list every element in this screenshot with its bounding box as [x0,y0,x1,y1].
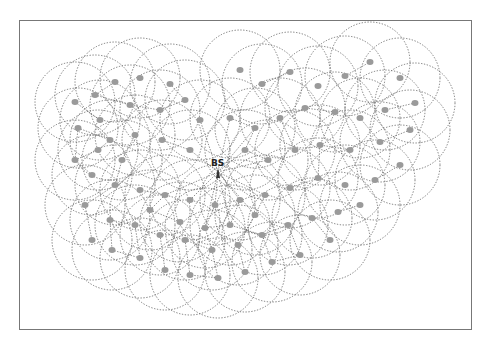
link [280,118,295,150]
link [170,84,185,100]
sensor-node [82,202,89,208]
sensor-node [317,142,324,148]
link [75,128,78,160]
sensor-node [287,69,294,75]
link [238,215,255,245]
sensor-node [132,222,139,228]
link-to-base-station [165,172,218,195]
sensor-node [227,222,234,228]
link [115,160,122,185]
sensor-node [242,269,249,275]
link [385,103,415,110]
sensor-node [137,187,144,193]
sensor-node [95,147,102,153]
link [85,205,92,240]
sensor-node [342,182,349,188]
sensor-node [197,117,204,123]
link [190,275,218,278]
sensor-node [72,99,79,105]
link [318,145,320,178]
link [312,218,330,240]
sensor-node [132,132,139,138]
sensor-node [372,177,379,183]
sensor-node [147,207,154,213]
sensor-node [109,247,116,253]
network-diagram: BS [0,0,491,347]
sensor-node [265,157,272,163]
link [345,62,370,76]
sensor-node [187,197,194,203]
link [230,118,255,128]
link-to-base-station [218,172,265,195]
link [380,130,410,142]
sensor-node [112,79,119,85]
sensor-node [262,192,269,198]
link-to-base-station [205,172,218,228]
sensor-node [397,162,404,168]
sensor-node [242,147,249,153]
sensor-node [162,267,169,273]
sensor-node [97,117,104,123]
sensor-node [159,137,166,143]
sensor-node [269,259,276,265]
sensor-node [112,182,119,188]
link [205,225,230,228]
link [375,165,400,180]
sensor-node [107,137,114,143]
sensor-node [167,81,174,87]
link [268,160,290,188]
sensor-node [259,81,266,87]
sensor-node [182,237,189,243]
link [320,112,335,145]
sensor-node [347,147,354,153]
link [122,135,135,160]
sensor-node [252,125,259,131]
sensor-node [75,125,82,131]
link [262,72,290,84]
sensor-node [367,59,374,65]
link [305,108,335,112]
sensor-node [335,209,342,215]
sensor-node [119,157,126,163]
sensor-node [287,185,294,191]
sensor-node [412,100,419,106]
sensor-node [72,157,79,163]
sensor-node [309,215,316,221]
sensor-node [209,247,216,253]
link [140,190,165,195]
sensor-node [92,92,99,98]
sensor-node [157,107,164,113]
sensor-node [357,115,364,121]
sensor-node [202,225,209,231]
sensor-node [332,109,339,115]
link [160,100,185,110]
sensor-node [187,147,194,153]
sensor-node [357,202,364,208]
sensor-node [107,217,114,223]
link [75,150,98,160]
sensor-node [297,252,304,258]
sensor-node [397,75,404,81]
sensor-node [302,105,309,111]
link [272,255,300,262]
sensor-node [157,232,164,238]
sensor-node [277,115,284,121]
link [245,128,255,150]
sensor-node [89,172,96,178]
sensor-node [162,192,169,198]
sensor-node [215,275,222,281]
sensor-node [227,115,234,121]
sensor-node [182,97,189,103]
sensor-node [177,219,184,225]
link [150,210,180,222]
sensor-node [292,147,299,153]
link [95,82,115,95]
link [162,140,190,150]
sensor-node [137,75,144,81]
sensor-node [342,73,349,79]
sensor-node [285,222,292,228]
sensor-node [235,242,242,248]
sensor-node [407,127,414,133]
sensor-node [252,212,259,218]
sensor-node [315,83,322,89]
